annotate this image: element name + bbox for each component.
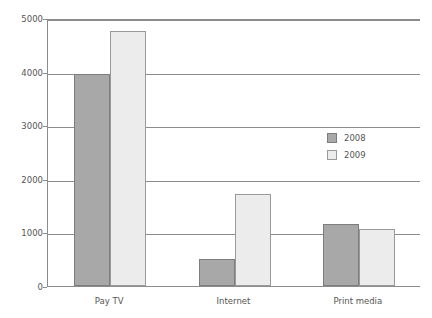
y-tick-label: 5000 xyxy=(3,15,43,24)
x-axis-label: Pay TV xyxy=(95,296,124,306)
y-tick-label: 4000 xyxy=(3,69,43,78)
bar-chart: 010002000300040005000 20082009 Pay TVInt… xyxy=(0,0,432,318)
bar-2008-internet xyxy=(199,259,235,286)
legend-swatch-icon xyxy=(327,133,337,143)
bar-2009-internet xyxy=(235,194,271,286)
legend-label: 2008 xyxy=(344,133,366,143)
legend-item: 2009 xyxy=(327,148,366,161)
gridline xyxy=(48,20,420,21)
bar-2008-print-media xyxy=(323,224,359,286)
x-axis-label: Internet xyxy=(217,296,251,306)
y-axis: 010002000300040005000 xyxy=(0,19,43,287)
y-tick-mark xyxy=(43,287,47,288)
y-tick-label: 3000 xyxy=(3,122,43,131)
legend-swatch-icon xyxy=(327,150,337,160)
legend-label: 2009 xyxy=(344,150,366,160)
chart-title xyxy=(47,0,407,2)
bar-2008-pay-tv xyxy=(74,74,110,286)
x-axis-label: Print media xyxy=(333,296,382,306)
y-tick-label: 2000 xyxy=(3,176,43,185)
legend-item: 2008 xyxy=(327,131,366,144)
y-tick-label: 1000 xyxy=(3,229,43,238)
bar-2009-pay-tv xyxy=(110,31,146,286)
chart-legend: 20082009 xyxy=(327,131,366,165)
y-tick-label: 0 xyxy=(3,283,43,292)
bar-2009-print-media xyxy=(359,229,395,286)
